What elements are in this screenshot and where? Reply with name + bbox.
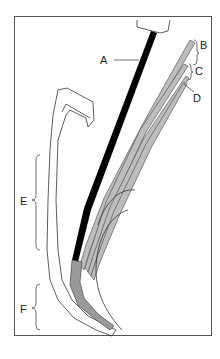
label-d: D xyxy=(193,93,201,104)
brace-f xyxy=(32,284,40,330)
label-e: E xyxy=(20,196,27,207)
anatomical-diagram xyxy=(0,0,220,359)
inner-hook xyxy=(62,104,90,118)
leader-d xyxy=(184,84,194,92)
label-c: C xyxy=(195,66,203,77)
label-a: A xyxy=(100,55,107,66)
label-b: B xyxy=(200,40,207,51)
top-holder xyxy=(137,20,170,33)
label-f: F xyxy=(20,304,27,315)
brace-e xyxy=(32,155,40,250)
